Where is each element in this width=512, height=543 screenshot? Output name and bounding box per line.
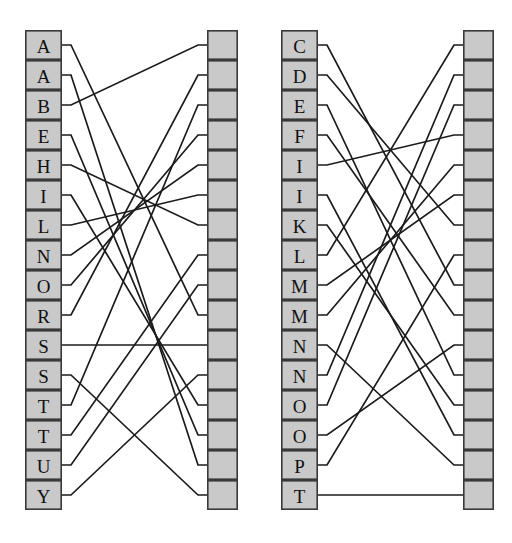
- right-labeled-column: CDEFIIKLMMNNOOPT: [282, 31, 317, 509]
- matching-edge: [318, 225, 463, 405]
- node-box[interactable]: [464, 421, 493, 449]
- matching-edge: [62, 45, 207, 105]
- node-label: A: [37, 36, 51, 57]
- node-label: E: [294, 96, 306, 117]
- left-diagram-canvas: AABEHILNORSSTTUY: [0, 0, 256, 543]
- node-box[interactable]: [464, 241, 493, 269]
- node-box[interactable]: [208, 391, 237, 419]
- node-box[interactable]: [464, 271, 493, 299]
- node-box[interactable]: [464, 391, 493, 419]
- node-box[interactable]: [208, 181, 237, 209]
- matching-edge: [318, 45, 463, 285]
- node-box[interactable]: [208, 421, 237, 449]
- node-box[interactable]: [208, 481, 237, 509]
- bipartite-matching-figure: AABEHILNORSSTTUY CDEFIIKLMMNNOOPT: [0, 0, 512, 543]
- matching-edge: [318, 75, 463, 375]
- node-box[interactable]: [464, 211, 493, 239]
- node-label: D: [293, 66, 307, 87]
- node-box[interactable]: [464, 451, 493, 479]
- node-label: I: [296, 186, 302, 207]
- node-label: E: [38, 126, 50, 147]
- node-box[interactable]: [464, 301, 493, 329]
- node-label: A: [37, 66, 51, 87]
- node-box[interactable]: [464, 121, 493, 149]
- node-label: K: [293, 216, 307, 237]
- node-box[interactable]: [208, 121, 237, 149]
- node-box[interactable]: [464, 481, 493, 509]
- node-label: U: [37, 456, 51, 477]
- matching-edge: [318, 345, 463, 465]
- node-label: T: [38, 396, 50, 417]
- node-box[interactable]: [464, 151, 493, 179]
- edge-layer: [62, 45, 207, 495]
- node-label: L: [294, 246, 306, 267]
- node-label: H: [37, 156, 51, 177]
- node-box[interactable]: [208, 361, 237, 389]
- right-diagram-canvas: CDEFIIKLMMNNOOPT: [256, 0, 512, 543]
- node-label: S: [38, 336, 49, 357]
- left-bipartite-diagram: AABEHILNORSSTTUY: [0, 0, 256, 543]
- node-label: N: [293, 336, 307, 357]
- node-label: N: [293, 366, 307, 387]
- left-blank-column: [208, 31, 237, 509]
- left-labeled-column: AABEHILNORSSTTUY: [26, 31, 61, 509]
- node-box[interactable]: [464, 31, 493, 59]
- node-label: M: [291, 276, 308, 297]
- node-box[interactable]: [208, 451, 237, 479]
- node-label: O: [293, 396, 307, 417]
- node-box[interactable]: [464, 361, 493, 389]
- node-label: O: [293, 426, 307, 447]
- node-box[interactable]: [208, 31, 237, 59]
- node-box[interactable]: [464, 61, 493, 89]
- matching-edge: [318, 255, 463, 465]
- node-box[interactable]: [208, 301, 237, 329]
- right-bipartite-diagram: CDEFIIKLMMNNOOPT: [256, 0, 512, 543]
- node-box[interactable]: [208, 151, 237, 179]
- node-box[interactable]: [208, 91, 237, 119]
- matching-edge: [62, 75, 207, 315]
- node-label: O: [37, 276, 51, 297]
- node-box[interactable]: [208, 241, 237, 269]
- node-label: C: [293, 36, 306, 57]
- node-label: I: [40, 186, 46, 207]
- node-label: F: [294, 126, 305, 147]
- node-label: B: [37, 96, 50, 117]
- matching-edge: [62, 375, 207, 495]
- right-blank-column: [464, 31, 493, 509]
- edge-layer: [318, 45, 463, 495]
- node-box[interactable]: [464, 181, 493, 209]
- matching-edge: [318, 165, 463, 315]
- node-label: I: [296, 156, 302, 177]
- node-label: R: [37, 306, 50, 327]
- node-label: N: [37, 246, 51, 267]
- node-box[interactable]: [208, 271, 237, 299]
- matching-edge: [62, 135, 207, 285]
- node-box[interactable]: [208, 61, 237, 89]
- node-label: M: [291, 306, 308, 327]
- node-label: S: [38, 366, 49, 387]
- node-label: L: [38, 216, 50, 237]
- node-box[interactable]: [464, 331, 493, 359]
- node-label: T: [294, 486, 306, 507]
- node-label: T: [38, 426, 50, 447]
- node-label: P: [294, 456, 305, 477]
- node-box[interactable]: [208, 331, 237, 359]
- node-box[interactable]: [464, 91, 493, 119]
- node-box[interactable]: [208, 211, 237, 239]
- node-label: Y: [37, 486, 51, 507]
